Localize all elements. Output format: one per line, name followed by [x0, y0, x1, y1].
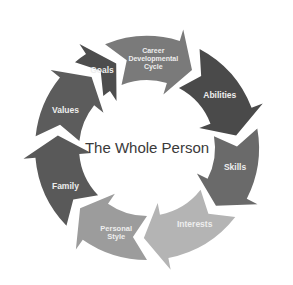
cycle-segment-label: Values: [52, 105, 79, 115]
cycle-segment-label: Family: [52, 181, 79, 191]
center-title: The Whole Person: [85, 139, 209, 156]
cycle-segment-label: Abilities: [203, 90, 236, 100]
whole-person-cycle-diagram: CareerDevelopmentalCycleAbilitiesSkillsI…: [0, 0, 293, 285]
cycle-segment-label: Skills: [224, 162, 246, 172]
cycle-segment-label: Interests: [177, 219, 213, 229]
cycle-segment-label: Goals: [90, 65, 114, 75]
